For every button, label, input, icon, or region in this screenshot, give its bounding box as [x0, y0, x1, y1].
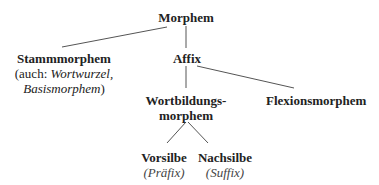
node-wortbildungsmorphem: Wortbildungs- morphem — [140, 93, 232, 123]
suffix-label: (Suffix) — [193, 165, 257, 180]
node-stammmorphem: Stammmorphem (auch: Wortwurzel, Basismor… — [4, 51, 124, 96]
edge-wortbildung-nachsilbe — [188, 122, 208, 143]
note-prefix: (auch: — [15, 66, 51, 81]
note-wortwurzel: Wortwurzel, — [51, 66, 114, 81]
stammmorphem-note-line2: Basismorphem) — [4, 81, 124, 96]
edge-morphem-stamm — [62, 27, 167, 47]
praefix-label: (Präfix) — [134, 165, 194, 180]
edge-affix-flexion — [197, 66, 294, 88]
wortbildung-label-line2: morphem — [140, 108, 232, 123]
wortbildung-label-line1: Wortbildungs- — [140, 93, 232, 108]
node-morphem: Morphem — [147, 10, 225, 25]
nachsilbe-label: Nachsilbe — [193, 150, 257, 165]
node-vorsilbe: Vorsilbe (Präfix) — [134, 150, 194, 180]
edge-wortbildung-vorsilbe — [167, 122, 186, 143]
stammmorphem-label: Stammmorphem — [4, 51, 124, 66]
node-nachsilbe: Nachsilbe (Suffix) — [193, 150, 257, 180]
vorsilbe-label: Vorsilbe — [134, 150, 194, 165]
stammmorphem-note-line1: (auch: Wortwurzel, — [4, 66, 124, 81]
note-suffix: ) — [100, 81, 104, 96]
note-basismorphem: Basismorphem — [23, 81, 100, 96]
node-affix: Affix — [162, 51, 212, 66]
node-flexionsmorphem: Flexionsmorphem — [266, 93, 366, 108]
